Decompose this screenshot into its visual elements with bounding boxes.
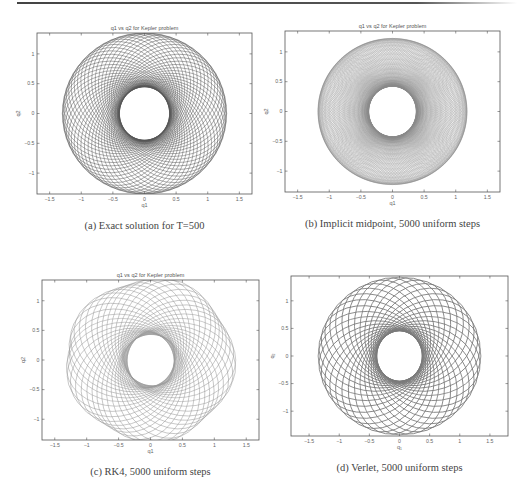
x-tick-label: −1: [84, 442, 90, 448]
x-tick-label: −0.5: [356, 194, 366, 200]
orbit-trajectory: [56, 267, 244, 451]
x-tick-label: 0.5: [421, 194, 428, 200]
y-tick-label: −1: [283, 408, 289, 414]
orbit-trajectory: [309, 268, 489, 444]
y-tick-label: −0.5: [24, 140, 34, 146]
y-tick-label: 0: [32, 110, 35, 116]
x-tick-label: −1.5: [293, 194, 303, 200]
y-tick-label: −1: [29, 170, 35, 176]
x-tick-label: 1.5: [236, 196, 243, 202]
y-tick-label: 1: [280, 49, 283, 55]
y-tick-label: 0: [37, 357, 40, 363]
axes-frame: [42, 280, 259, 440]
y-tick-label: −1: [34, 416, 40, 422]
y-axis-label: q2: [15, 110, 21, 116]
x-tick-label: −0.5: [113, 442, 123, 448]
x-axis-label: q1: [141, 202, 147, 208]
plot-d: −1.5−1−0.500.511.510.50−0.5−1q₁q₂: [291, 276, 508, 436]
x-tick-label: 1: [213, 442, 216, 448]
figure-caption-d: (d) Verlet, 5000 uniform steps: [336, 462, 462, 473]
y-axis-label: q2: [20, 357, 26, 363]
y-tick-label: 0.5: [27, 80, 34, 86]
x-tick-label: 0.5: [173, 196, 180, 202]
y-tick-label: −0.5: [29, 386, 39, 392]
x-axis-label: q1: [147, 448, 153, 454]
y-tick-label: 0.5: [32, 327, 39, 333]
plot-panel-b: −1.5−1−0.500.511.510.50−0.5−1q1 vs q2 fo…: [285, 31, 500, 192]
orbit-trajectory: [52, 22, 237, 205]
plot-panel-a: −1.5−1−0.500.511.510.50−0.5−1q1 vs q2 fo…: [37, 33, 252, 194]
y-tick-label: 0.5: [275, 78, 282, 84]
y-tick-label: 1: [286, 298, 289, 304]
x-tick-label: 1: [206, 196, 209, 202]
x-tick-label: 1.5: [243, 442, 250, 448]
y-axis-label: q2: [263, 108, 269, 114]
x-tick-label: 1: [458, 438, 461, 444]
plot-title: q1 vs q2 for Kepler problem: [359, 23, 427, 29]
y-tick-label: 1: [37, 298, 40, 304]
x-tick-label: −0.5: [364, 438, 374, 444]
x-tick-label: −1: [78, 196, 84, 202]
y-tick-label: −1: [277, 168, 283, 174]
plot-c: −1.5−1−0.500.511.510.50−0.5−1q1 vs q2 fo…: [42, 280, 259, 440]
x-tick-label: 1.5: [486, 438, 493, 444]
plot-panel-c: −1.5−1−0.500.511.510.50−0.5−1q1 vs q2 fo…: [42, 280, 259, 440]
x-axis-label: q1: [389, 200, 395, 206]
y-tick-label: 1: [32, 51, 35, 57]
orbit-trajectory: [308, 28, 477, 195]
axes-frame: [37, 33, 252, 194]
x-tick-label: −1.5: [45, 196, 55, 202]
x-tick-label: 0.5: [179, 442, 186, 448]
x-tick-label: 1: [454, 194, 457, 200]
axes-frame: [285, 31, 500, 192]
header-rule: [17, 2, 517, 4]
x-tick-label: −1.5: [304, 438, 314, 444]
y-tick-label: 0: [280, 108, 283, 114]
y-tick-label: −0.5: [272, 138, 282, 144]
x-tick-label: −0.5: [108, 196, 118, 202]
x-tick-label: −1: [326, 194, 332, 200]
x-tick-label: −1: [336, 438, 342, 444]
figure-caption-a: (a) Exact solution for T=500: [84, 220, 204, 231]
figure-caption-c: (c) RK4, 5000 uniform steps: [90, 466, 210, 477]
plot-title: q1 vs q2 for Kepler problem: [117, 272, 185, 278]
x-tick-label: −1.5: [50, 442, 60, 448]
x-tick-label: 0.5: [426, 438, 433, 444]
plot-panel-d: −1.5−1−0.500.511.510.50−0.5−1q₁q₂: [291, 276, 508, 436]
x-axis-label: q₁: [397, 444, 402, 450]
y-tick-label: −0.5: [278, 380, 288, 386]
y-tick-label: 0: [286, 353, 289, 359]
plot-b: −1.5−1−0.500.511.510.50−0.5−1q1 vs q2 fo…: [285, 31, 500, 192]
y-axis-label: q₂: [269, 353, 275, 358]
plot-title: q1 vs q2 for Kepler problem: [111, 25, 179, 31]
axes-frame: [291, 276, 508, 436]
x-tick-label: 1.5: [484, 194, 491, 200]
figure-caption-b: (b) Implicit midpoint, 5000 uniform step…: [305, 218, 480, 229]
y-tick-label: 0.5: [281, 325, 288, 331]
plot-a: −1.5−1−0.500.511.510.50−0.5−1q1 vs q2 fo…: [37, 33, 252, 194]
